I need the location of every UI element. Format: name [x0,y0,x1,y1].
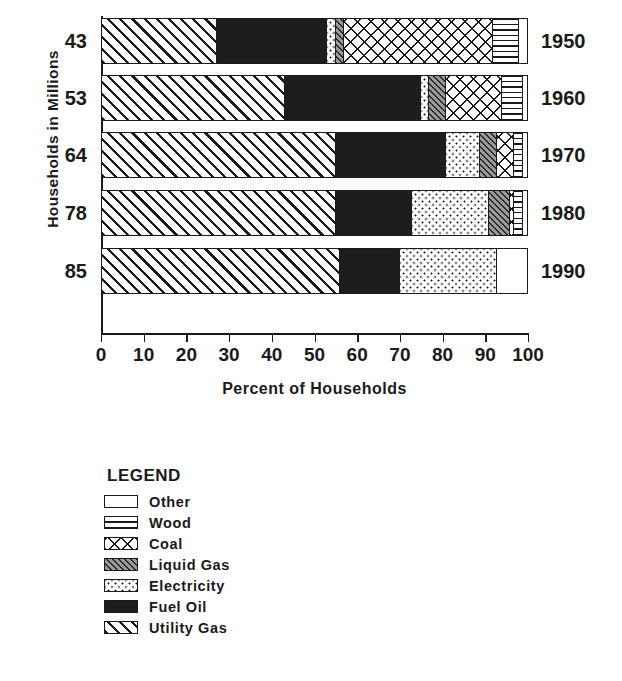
legend-label: Wood [149,515,191,531]
row-value-1960: 53 [41,75,87,121]
legend-swatch [104,558,138,571]
row-value-1950: 43 [41,18,87,64]
legend-item: Electricity [104,575,344,596]
legend: LEGEND OtherWoodCoalLiquid GasElectricit… [104,466,344,638]
legend-label: Fuel Oil [149,599,207,615]
x-tick-label: 50 [293,344,337,366]
x-tick [186,333,187,342]
x-tick [400,333,401,342]
x-tick [357,333,358,342]
x-tick-label: 40 [250,344,294,366]
legend-item: Other [104,491,344,512]
segment-utility-gas [102,133,336,177]
segment-liquid-gas [429,76,446,120]
segment-other [497,249,527,293]
legend-item: Utility Gas [104,617,344,638]
x-tick [272,333,273,342]
x-tick [485,333,486,342]
segment-fuel-oil [340,249,400,293]
x-tick [528,333,529,342]
x-tick-label: 100 [506,344,550,366]
segment-utility-gas [102,76,285,120]
segment-electricity [327,19,336,63]
legend-label: Other [149,494,191,510]
segment-other [523,76,527,120]
bar-row [101,248,528,294]
legend-title: LEGEND [107,466,344,486]
legend-swatch [104,516,138,529]
row-year-1970: 1970 [541,132,621,178]
row-value-1990: 85 [41,248,87,294]
bar-row [101,132,528,178]
row-year-1960: 1960 [541,75,621,121]
row-value-1980: 78 [41,190,87,236]
legend-item: Wood [104,512,344,533]
row-value-1970: 64 [41,132,87,178]
legend-label: Utility Gas [149,620,227,636]
segment-fuel-oil [336,191,413,235]
x-tick-label: 80 [421,344,465,366]
segment-wood [514,191,523,235]
legend-item: Coal [104,533,344,554]
segment-other [519,19,527,63]
segment-coal [446,76,501,120]
x-tick-label: 20 [164,344,208,366]
legend-item: Fuel Oil [104,596,344,617]
plot-area: 43 1950 53 1960 64 1970 [101,18,528,308]
bar-row [101,75,528,121]
segment-other [523,191,527,235]
x-axis-title: Percent of Households [101,380,528,398]
segment-coal [497,133,514,177]
segment-electricity [421,76,430,120]
segment-coal [344,19,493,63]
legend-label: Liquid Gas [149,557,230,573]
segment-fuel-oil [217,19,328,63]
segment-electricity [446,133,480,177]
segment-liquid-gas [489,191,510,235]
x-tick-label: 0 [79,344,123,366]
stacked-bar-chart: Households in Millions 43 1950 53 1960 [0,0,622,430]
segment-wood [514,133,523,177]
segment-utility-gas [102,249,340,293]
legend-swatch [104,537,138,550]
row-year-1990: 1990 [541,248,621,294]
segment-liquid-gas [480,133,497,177]
bar-row [101,190,528,236]
legend-label: Coal [149,536,183,552]
x-tick-label: 10 [122,344,166,366]
segment-wood [502,76,523,120]
x-tick-label: 30 [207,344,251,366]
legend-swatch [104,600,138,613]
legend-swatch [104,495,138,508]
x-tick-label: 90 [463,344,507,366]
row-year-1950: 1950 [541,18,621,64]
row-year-1980: 1980 [541,190,621,236]
segment-wood [493,19,519,63]
x-tick-label: 60 [335,344,379,366]
segment-other [523,133,527,177]
segment-utility-gas [102,191,336,235]
x-tick [101,333,102,342]
legend-label: Electricity [149,578,225,594]
segment-fuel-oil [336,133,447,177]
x-tick [315,333,316,342]
legend-entries: OtherWoodCoalLiquid GasElectricityFuel O… [104,491,344,638]
segment-utility-gas [102,19,217,63]
x-tick [443,333,444,342]
segment-fuel-oil [285,76,421,120]
x-tick-label: 70 [378,344,422,366]
legend-swatch [104,621,138,634]
bar-row [101,18,528,64]
segment-liquid-gas [336,19,345,63]
x-tick [229,333,230,342]
legend-item: Liquid Gas [104,554,344,575]
legend-swatch [104,579,138,592]
x-tick [144,333,145,342]
segment-electricity [400,249,498,293]
segment-electricity [412,191,489,235]
